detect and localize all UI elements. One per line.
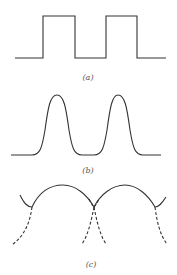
panel-a-square-wave	[15, 16, 166, 58]
panel-b-label: (b)	[82, 166, 93, 175]
panel-b-pulse-train	[11, 95, 161, 155]
panel-a-label: (a)	[82, 73, 93, 82]
panel-c-label: (c)	[86, 260, 97, 269]
panel-c-arcs	[13, 185, 167, 244]
waveform-figure	[0, 0, 177, 275]
